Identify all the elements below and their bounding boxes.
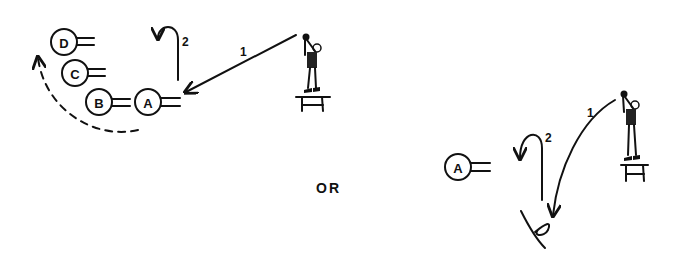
player-label: A <box>143 96 153 111</box>
pass-number-label: 1 <box>240 45 247 59</box>
pass-arrow <box>186 35 296 92</box>
player-label: A <box>453 161 463 176</box>
or-separator: OR <box>316 180 341 196</box>
player-a-right: A <box>445 154 490 180</box>
loop-icon <box>535 224 549 235</box>
passer-figure-icon <box>296 34 330 112</box>
player-label: C <box>70 67 80 82</box>
pass-number-label: 1 <box>587 106 594 120</box>
player-b: B <box>86 89 130 115</box>
player-label: B <box>94 96 103 111</box>
player-d: D <box>51 29 94 55</box>
pass-arrow <box>553 100 615 215</box>
drill-diagram: D C B A 2 1 <box>0 0 677 263</box>
player-label: D <box>59 36 68 51</box>
left-panel: D C B A 2 1 <box>38 27 330 132</box>
pivot-icon <box>521 211 545 248</box>
move-number-label: 2 <box>545 131 552 145</box>
player-c: C <box>62 60 105 86</box>
move-number-label: 2 <box>182 35 189 49</box>
right-panel: A 2 1 <box>445 91 648 249</box>
cut-path-arrow <box>520 135 542 200</box>
passer-figure-icon <box>621 91 649 182</box>
cut-path-arrow <box>158 27 178 80</box>
player-a: A <box>135 89 180 115</box>
